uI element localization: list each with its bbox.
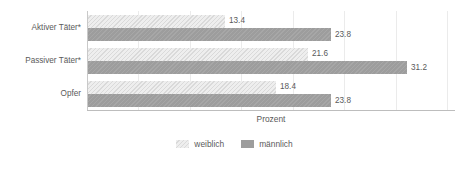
category-label-passiver-taeter: Passiver Täter* [0, 56, 81, 66]
plot-area: 13.4 23.8 21.6 31.2 18.4 23.8 [87, 11, 455, 110]
bar-maennlich-opfer[interactable] [88, 94, 331, 107]
y-axis-category-labels: Aktiver Täter* Passiver Täter* Opfer [0, 11, 81, 110]
x-axis-title: Prozent [87, 114, 455, 124]
chart-container: 13.4 23.8 21.6 31.2 18.4 23.8 Aktiver Tä… [0, 0, 469, 170]
y-axis-line [87, 11, 88, 110]
legend-swatch-weiblich-icon [176, 140, 189, 148]
chart-legend: weiblich männlich [0, 139, 469, 149]
category-label-aktiver-taeter: Aktiver Täter* [0, 23, 81, 33]
bar-weiblich-opfer[interactable] [88, 81, 276, 94]
bar-maennlich-passiver-taeter[interactable] [88, 61, 407, 74]
category-label-opfer: Opfer [0, 89, 81, 99]
bar-weiblich-aktiver-taeter[interactable] [88, 15, 225, 28]
legend-label-maennlich: männlich [259, 139, 293, 149]
value-label-maennlich-passiver-taeter: 31.2 [411, 63, 427, 72]
value-label-maennlich-aktiver-taeter: 23.8 [335, 30, 351, 39]
value-label-maennlich-opfer: 23.8 [335, 96, 351, 105]
gridline-x-35 [447, 11, 448, 110]
bar-weiblich-passiver-taeter[interactable] [88, 48, 308, 61]
legend-item-weiblich[interactable]: weiblich [176, 139, 224, 149]
value-label-weiblich-aktiver-taeter: 13.4 [229, 16, 245, 25]
value-label-weiblich-opfer: 18.4 [280, 82, 296, 91]
value-label-weiblich-passiver-taeter: 21.6 [312, 49, 328, 58]
legend-swatch-maennlich-icon [241, 140, 254, 148]
bar-maennlich-aktiver-taeter[interactable] [88, 28, 331, 41]
legend-label-weiblich: weiblich [194, 139, 224, 149]
legend-item-maennlich[interactable]: männlich [241, 139, 293, 149]
x-axis-line [87, 110, 455, 111]
